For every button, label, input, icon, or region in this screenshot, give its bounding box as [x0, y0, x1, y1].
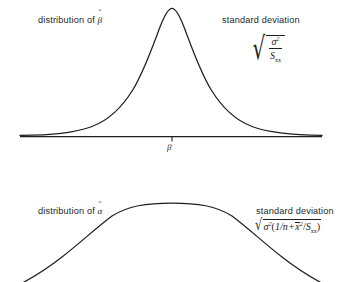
hat-accent: ˆ: [99, 202, 102, 210]
beta-distribution-label: distribution of ˆ β: [38, 15, 102, 25]
fraction-denominator: Sxx: [269, 48, 282, 61]
beta-parameter-glyph: β: [167, 142, 172, 152]
alpha-distribution-label: distribution of ˆ α: [38, 206, 103, 216]
statistics-figure: distribution of ˆ β standard deviation √…: [0, 0, 360, 282]
panel-beta-distribution: distribution of ˆ β standard deviation √…: [0, 0, 360, 155]
hat-accent: ˆ: [99, 10, 102, 18]
sigma-exponent: 2: [276, 35, 279, 42]
close-paren: ): [317, 221, 320, 232]
x-glyph: x: [295, 221, 299, 232]
sigma-over-sxx-fraction: σ2 Sxx: [266, 35, 285, 61]
alpha-distribution-text: distribution of: [38, 206, 95, 216]
beta-axis-tick-label: β: [167, 142, 172, 152]
alpha-hat-symbol: ˆ α: [98, 206, 103, 216]
radical-icon: √: [255, 218, 262, 234]
bar-accent: [295, 222, 299, 223]
radicand-expression: σ2(1/n+x2/Sxx): [263, 219, 321, 234]
alpha-standard-deviation-label: standard deviation: [256, 206, 334, 216]
s-subscript: xx: [275, 57, 281, 63]
beta-standard-deviation-label: standard deviation: [222, 15, 300, 25]
beta-standard-deviation-formula: √ σ2 Sxx: [251, 36, 285, 61]
alpha-standard-deviation-formula: √ σ2(1/n+x2/Sxx): [255, 219, 321, 234]
one-over-n: 1/n: [275, 221, 288, 232]
fraction-numerator: σ2: [270, 36, 280, 48]
x-bar-symbol: x: [295, 221, 299, 234]
beta-hat-symbol: ˆ β: [98, 15, 103, 25]
beta-distribution-text: distribution of: [38, 15, 95, 25]
radical-icon: √: [253, 33, 266, 64]
panel-alpha-distribution: distribution of ˆ α standard deviation √…: [0, 160, 360, 282]
